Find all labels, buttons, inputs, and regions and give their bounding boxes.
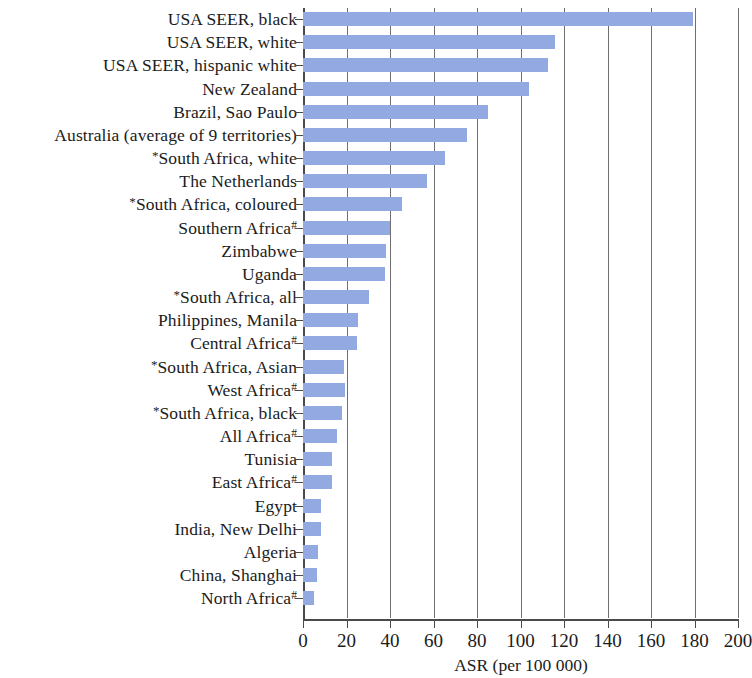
category-label-text: New Zealand bbox=[202, 79, 297, 99]
bar-row: USA SEER, hispanic white bbox=[0, 54, 746, 77]
category-label: Zimbabwe bbox=[221, 240, 297, 263]
x-axis-tick-label: 80 bbox=[468, 630, 487, 652]
x-axis-title: ASR (per 100 000) bbox=[303, 655, 739, 676]
y-axis-tick bbox=[295, 436, 303, 437]
category-label-text: India, New Delhi bbox=[174, 519, 297, 539]
category-label-text: Australia (average of 9 territories) bbox=[54, 125, 297, 145]
category-label: China, Shanghai bbox=[180, 564, 297, 587]
category-label-text: Zimbabwe bbox=[221, 241, 297, 261]
asterisk-marker: * bbox=[153, 403, 160, 418]
y-axis-tick bbox=[295, 19, 303, 20]
y-axis-tick bbox=[295, 158, 303, 159]
category-label-text: USA SEER, white bbox=[167, 32, 297, 52]
bar bbox=[303, 267, 385, 281]
x-axis-tick bbox=[390, 620, 391, 628]
category-label: Egypt bbox=[255, 495, 297, 518]
hash-marker: # bbox=[291, 473, 297, 485]
bar-row: *South Africa, Asian bbox=[0, 356, 746, 379]
hash-marker: # bbox=[291, 381, 297, 393]
x-axis-tick-label: 100 bbox=[506, 630, 535, 652]
y-axis-tick bbox=[295, 413, 303, 414]
category-label: USA SEER, black bbox=[168, 8, 297, 31]
category-label-text: Egypt bbox=[255, 496, 297, 516]
hash-marker: # bbox=[291, 219, 297, 231]
y-axis-tick bbox=[295, 181, 303, 182]
category-label-text: North Africa bbox=[201, 588, 291, 608]
bar-row: China, Shanghai bbox=[0, 564, 746, 587]
bar bbox=[303, 58, 548, 72]
bar bbox=[303, 383, 345, 397]
x-axis-tick-label: 60 bbox=[424, 630, 443, 652]
category-label-text: South Africa, Asian bbox=[158, 357, 297, 377]
bar bbox=[303, 429, 337, 443]
x-axis-tick-label: 20 bbox=[337, 630, 356, 652]
category-label: North Africa# bbox=[201, 587, 297, 610]
category-label: Algeria bbox=[244, 541, 297, 564]
bar bbox=[303, 12, 693, 26]
category-label-text: South Africa, white bbox=[159, 148, 297, 168]
y-axis-tick bbox=[295, 42, 303, 43]
category-label-text: West Africa bbox=[207, 380, 291, 400]
category-label-text: South Africa, all bbox=[180, 287, 297, 307]
bar-row: Brazil, Sao Paulo bbox=[0, 101, 746, 124]
y-axis-tick bbox=[295, 228, 303, 229]
bar-row: India, New Delhi bbox=[0, 518, 746, 541]
bar-row: Tunisia bbox=[0, 448, 746, 471]
y-axis-tick bbox=[295, 89, 303, 90]
bar-row: Zimbabwe bbox=[0, 240, 746, 263]
bar bbox=[303, 406, 342, 420]
bar-row: West Africa# bbox=[0, 379, 746, 402]
bar-row: New Zealand bbox=[0, 78, 746, 101]
y-axis-tick bbox=[295, 459, 303, 460]
bar-row: *South Africa, black bbox=[0, 402, 746, 425]
bar-row: The Netherlands bbox=[0, 170, 746, 193]
x-axis-tick bbox=[651, 620, 652, 628]
category-label-text: USA SEER, hispanic white bbox=[103, 55, 297, 75]
bar-row: Philippines, Manila bbox=[0, 309, 746, 332]
x-axis-tick bbox=[564, 620, 565, 628]
bar bbox=[303, 545, 318, 559]
hash-marker: # bbox=[291, 427, 297, 439]
y-axis-tick bbox=[295, 367, 303, 368]
bar-row: Algeria bbox=[0, 541, 746, 564]
y-axis-tick bbox=[295, 251, 303, 252]
category-label: *South Africa, all bbox=[174, 286, 298, 309]
bar bbox=[303, 568, 317, 582]
x-axis-tick bbox=[303, 620, 304, 628]
bar bbox=[303, 591, 314, 605]
asterisk-marker: * bbox=[174, 287, 181, 302]
x-axis-tick bbox=[608, 620, 609, 628]
category-label: West Africa# bbox=[207, 379, 297, 402]
asterisk-marker: * bbox=[152, 148, 159, 163]
bar-row: North Africa# bbox=[0, 587, 746, 610]
y-axis-tick bbox=[295, 506, 303, 507]
category-label-text: USA SEER, black bbox=[168, 9, 297, 29]
y-axis-tick bbox=[295, 135, 303, 136]
category-label: *South Africa, Asian bbox=[151, 356, 297, 379]
category-label: East Africa# bbox=[212, 471, 297, 494]
category-label: The Netherlands bbox=[179, 170, 297, 193]
category-label-text: Central Africa bbox=[190, 333, 291, 353]
category-label: Central Africa# bbox=[190, 332, 297, 355]
bar bbox=[303, 244, 386, 258]
category-label-text: The Netherlands bbox=[179, 171, 297, 191]
y-axis-tick bbox=[295, 390, 303, 391]
bar bbox=[303, 151, 445, 165]
y-axis-tick bbox=[295, 274, 303, 275]
category-label-text: Algeria bbox=[244, 542, 297, 562]
category-label: Australia (average of 9 territories) bbox=[54, 124, 297, 147]
y-axis-tick bbox=[295, 529, 303, 530]
bar bbox=[303, 313, 358, 327]
bar bbox=[303, 522, 321, 536]
hash-marker: # bbox=[291, 334, 297, 346]
bar-row: *South Africa, white bbox=[0, 147, 746, 170]
x-axis-tick-label: 120 bbox=[550, 630, 579, 652]
category-label: New Zealand bbox=[202, 78, 297, 101]
bar bbox=[303, 35, 555, 49]
y-axis-tick bbox=[295, 598, 303, 599]
x-axis-tick-label: 160 bbox=[637, 630, 666, 652]
category-label-text: Brazil, Sao Paulo bbox=[173, 102, 297, 122]
bar bbox=[303, 452, 332, 466]
category-label-text: Uganda bbox=[242, 264, 297, 284]
